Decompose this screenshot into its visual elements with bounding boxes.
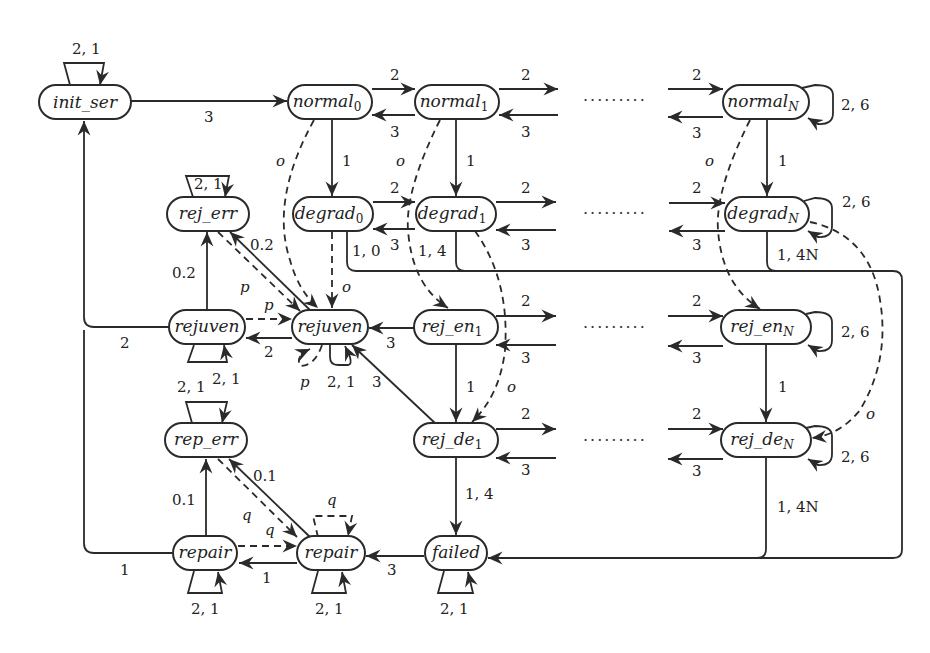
svg-text:3: 3 bbox=[387, 561, 397, 579]
svg-text:rejuven: rejuven bbox=[174, 316, 239, 336]
svg-text:2, 1: 2, 1 bbox=[177, 378, 206, 396]
svg-text:2: 2 bbox=[521, 292, 531, 310]
svg-text:3: 3 bbox=[521, 349, 531, 367]
node-repair-left: repair bbox=[173, 536, 237, 570]
svg-text:1, 4N: 1, 4N bbox=[777, 246, 819, 264]
svg-text:q: q bbox=[327, 491, 337, 509]
svg-text:2: 2 bbox=[521, 179, 531, 197]
svg-text:3: 3 bbox=[390, 123, 400, 141]
node-rej-err: rej_err bbox=[167, 197, 249, 231]
svg-text:3: 3 bbox=[521, 461, 531, 479]
node-init-ser: init_ser bbox=[39, 85, 131, 119]
node-normal-1: normal1 bbox=[415, 85, 499, 119]
svg-text:rep_err: rep_err bbox=[174, 429, 239, 449]
state-diagram: init_ser normal0 normal1 normalN rej_err… bbox=[0, 0, 930, 653]
svg-text:o: o bbox=[705, 152, 714, 170]
svg-text:1, 4N: 1, 4N bbox=[777, 498, 819, 516]
svg-text:3: 3 bbox=[692, 236, 702, 254]
svg-text:3: 3 bbox=[521, 123, 531, 141]
svg-text:·········: ········· bbox=[583, 431, 647, 450]
svg-text:q: q bbox=[265, 521, 275, 539]
node-degrad-n: degradN bbox=[725, 197, 809, 231]
svg-text:2, 6: 2, 6 bbox=[841, 96, 870, 114]
svg-text:3: 3 bbox=[390, 236, 400, 254]
svg-text:o: o bbox=[507, 378, 516, 396]
svg-text:1: 1 bbox=[466, 152, 476, 170]
svg-text:2, 1: 2, 1 bbox=[315, 600, 344, 618]
svg-text:rej_en1: rej_en1 bbox=[422, 316, 483, 339]
svg-text:2: 2 bbox=[390, 179, 400, 197]
node-rep-err: rep_err bbox=[165, 423, 247, 457]
svg-text:1, 4: 1, 4 bbox=[418, 242, 447, 260]
svg-text:1: 1 bbox=[778, 152, 788, 170]
svg-text:normal1: normal1 bbox=[420, 91, 489, 114]
node-normal-0: normal0 bbox=[288, 85, 372, 119]
svg-text:degrad0: degrad0 bbox=[295, 203, 364, 226]
node-repair-mid: repair bbox=[297, 536, 365, 570]
svg-text:3: 3 bbox=[692, 124, 702, 142]
svg-text:2, 1: 2, 1 bbox=[327, 373, 356, 391]
svg-text:o: o bbox=[396, 152, 405, 170]
svg-text:degrad1: degrad1 bbox=[418, 203, 487, 226]
node-rej-en-n: rej_enN bbox=[721, 310, 811, 344]
svg-text:1: 1 bbox=[778, 378, 788, 396]
svg-text:p: p bbox=[240, 278, 250, 296]
svg-text:o: o bbox=[276, 152, 285, 170]
svg-text:·········: ········· bbox=[583, 91, 647, 110]
svg-text:1: 1 bbox=[262, 569, 272, 587]
svg-text:1: 1 bbox=[466, 378, 476, 396]
node-rejuven-mid: rejuven bbox=[292, 310, 368, 344]
svg-text:2, 1: 2, 1 bbox=[212, 370, 241, 388]
svg-text:0.2: 0.2 bbox=[250, 236, 274, 254]
svg-text:o: o bbox=[342, 278, 351, 296]
svg-text:0.2: 0.2 bbox=[172, 264, 196, 282]
svg-text:rej_de1: rej_de1 bbox=[422, 429, 483, 452]
node-rej-en-1: rej_en1 bbox=[414, 310, 498, 344]
svg-text:2: 2 bbox=[692, 66, 702, 84]
svg-text:2, 1: 2, 1 bbox=[191, 600, 220, 618]
svg-text:2, 1: 2, 1 bbox=[194, 175, 223, 193]
svg-text:repair: repair bbox=[179, 542, 233, 562]
node-rej-de-1: rej_de1 bbox=[414, 423, 498, 457]
svg-text:repair: repair bbox=[305, 542, 359, 562]
svg-text:3: 3 bbox=[692, 462, 702, 480]
svg-text:2: 2 bbox=[692, 292, 702, 310]
svg-text:2: 2 bbox=[521, 66, 531, 84]
svg-text:rej_err: rej_err bbox=[179, 203, 238, 223]
svg-text:q: q bbox=[242, 506, 252, 524]
node-degrad-1: degrad1 bbox=[416, 197, 496, 231]
svg-text:3: 3 bbox=[521, 236, 531, 254]
svg-text:2: 2 bbox=[264, 343, 274, 361]
svg-text:2, 6: 2, 6 bbox=[842, 193, 871, 211]
svg-text:normal0: normal0 bbox=[293, 91, 362, 114]
svg-text:2: 2 bbox=[521, 405, 531, 423]
svg-text:3: 3 bbox=[204, 108, 214, 126]
svg-text:2, 6: 2, 6 bbox=[841, 323, 870, 341]
svg-text:·········: ········· bbox=[583, 318, 647, 337]
svg-text:1, 4: 1, 4 bbox=[465, 485, 494, 503]
svg-text:rejuven: rejuven bbox=[297, 316, 362, 336]
svg-text:o: o bbox=[866, 405, 875, 423]
svg-text:p: p bbox=[264, 296, 274, 314]
node-normal-n: normalN bbox=[723, 85, 809, 119]
svg-text:1, 0: 1, 0 bbox=[352, 242, 381, 260]
svg-text:2: 2 bbox=[120, 334, 130, 352]
node-rej-de-n: rej_deN bbox=[721, 423, 811, 457]
node-rejuven-left: rejuven bbox=[169, 310, 245, 344]
svg-text:1: 1 bbox=[120, 561, 130, 579]
svg-text:·········: ········· bbox=[583, 204, 647, 223]
svg-text:2: 2 bbox=[692, 179, 702, 197]
svg-text:3: 3 bbox=[386, 334, 396, 352]
svg-text:3: 3 bbox=[372, 373, 382, 391]
svg-text:0.1: 0.1 bbox=[172, 491, 196, 509]
svg-text:p: p bbox=[300, 373, 310, 391]
svg-text:2: 2 bbox=[692, 405, 702, 423]
svg-text:0.1: 0.1 bbox=[253, 467, 277, 485]
node-degrad-0: degrad0 bbox=[293, 197, 373, 231]
svg-text:2, 1: 2, 1 bbox=[440, 600, 469, 618]
svg-text:2: 2 bbox=[390, 66, 400, 84]
label-init-loop: 2, 1 bbox=[72, 40, 101, 58]
svg-text:3: 3 bbox=[692, 349, 702, 367]
svg-text:init_ser: init_ser bbox=[53, 92, 118, 112]
node-failed: failed bbox=[425, 536, 487, 570]
